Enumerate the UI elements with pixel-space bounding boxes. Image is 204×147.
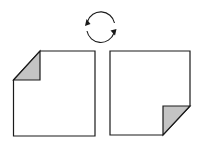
folded-corner (163, 106, 190, 135)
sheet-body (110, 51, 190, 135)
left-sheet (14, 51, 96, 136)
rotation-arrows-icon (85, 12, 117, 43)
sheet-body (14, 51, 96, 136)
rotation-diagram (0, 0, 204, 147)
folded-corner (14, 51, 41, 80)
right-sheet (110, 51, 190, 135)
